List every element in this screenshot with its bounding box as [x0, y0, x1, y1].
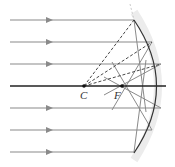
concave-mirror-diagram: C F — [0, 0, 175, 167]
label-f: F — [113, 89, 121, 101]
label-c: C — [80, 89, 88, 101]
center-of-curvature-point — [82, 84, 86, 88]
focal-point — [120, 84, 124, 88]
